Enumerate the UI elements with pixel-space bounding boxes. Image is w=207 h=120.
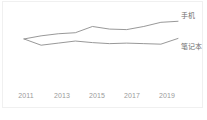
line-series-laptop xyxy=(24,38,178,45)
line-series-mobile xyxy=(24,21,178,39)
x-tick-2019: 2019 xyxy=(159,92,175,99)
x-tick-2015: 2015 xyxy=(89,92,105,99)
legend-label-laptop: 笔记本 xyxy=(181,43,202,51)
x-tick-2013: 2013 xyxy=(54,92,70,99)
x-tick-2017: 2017 xyxy=(124,92,140,99)
x-tick-2011: 2011 xyxy=(18,92,33,99)
chart-container: 手机 笔记本 2011 2013 2015 2017 2019 xyxy=(0,0,207,120)
legend-label-mobile: 手机 xyxy=(181,12,195,20)
x-axis-tick-labels: 2011 2013 2015 2017 2019 xyxy=(0,92,207,104)
